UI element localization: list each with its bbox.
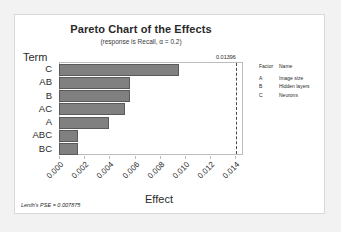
bar-row — [60, 76, 242, 89]
chart-title: Pareto Chart of the Effects — [15, 23, 267, 35]
legend-row: AImage size — [259, 74, 310, 83]
bar-ABC — [59, 130, 78, 142]
legend-factor-B: B — [259, 82, 279, 91]
legend-row: BHidden layers — [259, 82, 310, 91]
plot-area: 0.01396 — [59, 62, 243, 155]
y-tick-label-ABC: ABC — [15, 128, 56, 141]
y-tick-label-AB: AB — [15, 75, 56, 88]
y-tick-label-BC: BC — [15, 142, 56, 155]
bar-row — [60, 129, 242, 142]
footnote: Lenth's PSE = 0.007875 — [21, 202, 80, 208]
y-tick-label-AC: AC — [15, 102, 56, 115]
y-tick-label-A: A — [15, 115, 56, 128]
bar-row — [60, 103, 242, 116]
legend-header-row: FactorName — [259, 62, 310, 74]
bar-series — [60, 63, 242, 156]
bar-row — [60, 63, 242, 76]
chart-subtitle: (response is Recall, α = 0.2) — [15, 38, 267, 45]
bar-B — [59, 90, 130, 102]
x-axis-tick-labels: 0.0000.0020.0040.0060.0080.0100.0120.014 — [59, 156, 243, 192]
y-axis-tick-labels: CABBACAABCBC — [15, 62, 56, 155]
bar-AB — [59, 77, 130, 89]
legend-header-factor: Factor — [259, 62, 279, 74]
bar-row — [60, 90, 242, 103]
bar-AC — [59, 103, 125, 115]
factor-legend-table: FactorNameAImage sizeBHidden layersCNeur… — [259, 62, 310, 99]
legend-name-B: Hidden layers — [279, 82, 310, 91]
y-tick-label-B: B — [15, 89, 56, 102]
x-axis-title: Effect — [59, 193, 259, 205]
reference-line: 0.01396 — [236, 63, 237, 154]
bar-A — [59, 117, 109, 129]
legend-row: CNeurons — [259, 91, 310, 100]
legend-name-C: Neurons — [279, 91, 310, 100]
y-tick-label-C: C — [15, 62, 56, 75]
legend-factor-A: A — [259, 74, 279, 83]
bar-row — [60, 116, 242, 129]
legend-header-name: Name — [279, 62, 310, 74]
factor-legend: FactorNameAImage sizeBHidden layersCNeur… — [259, 62, 310, 99]
reference-line-label: 0.01396 — [216, 54, 237, 60]
pareto-chart-figure: Pareto Chart of the Effects (response is… — [14, 14, 325, 214]
bar-C — [59, 64, 179, 76]
legend-name-A: Image size — [279, 74, 310, 83]
legend-factor-C: C — [259, 91, 279, 100]
